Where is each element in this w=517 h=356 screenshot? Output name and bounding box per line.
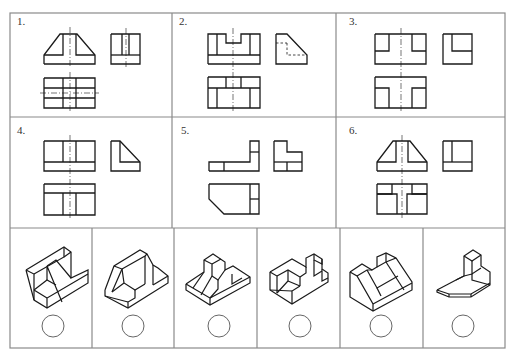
problem-label-6: 6. — [349, 124, 357, 136]
isometric-edge — [386, 258, 396, 262]
problem-label-4: 4. — [17, 124, 25, 136]
isometric-edge — [212, 259, 221, 264]
isometric-edge — [456, 276, 464, 280]
isometric-edge — [47, 274, 88, 308]
problem-label-1: 1. — [17, 15, 25, 27]
problem-label-2: 2. — [179, 15, 187, 27]
answer-circle-2[interactable] — [122, 315, 144, 337]
isometric-option-3 — [186, 254, 250, 305]
isometric-edge — [210, 277, 250, 298]
isometric-option-6 — [437, 250, 490, 297]
isometric-edge — [288, 281, 300, 286]
isometric-option-2 — [105, 250, 168, 308]
answer-circle-4[interactable] — [289, 315, 311, 337]
isometric-edge — [350, 253, 412, 311]
isometric-drawings — [0, 0, 517, 356]
isometric-edge — [212, 270, 225, 280]
isometric-edge — [300, 267, 306, 277]
isometric-edge — [464, 255, 481, 261]
isometric-edge — [270, 290, 292, 291]
isometric-edge — [314, 254, 322, 264]
three-view-matching-worksheet: 1. 2. 3. 4. 5. 6. — [0, 0, 517, 356]
isometric-option-4 — [270, 254, 328, 304]
isometric-edge — [122, 254, 147, 269]
isometric-edge — [472, 274, 490, 285]
answer-circle-3[interactable] — [208, 315, 230, 337]
answer-circle-5[interactable] — [370, 315, 392, 337]
answer-circle-6[interactable] — [452, 315, 474, 337]
isometric-edge — [153, 276, 168, 285]
isometric-edge — [105, 296, 128, 302]
problem-label-5: 5. — [181, 124, 189, 136]
isometric-edge — [193, 272, 204, 288]
isometric-edge — [105, 250, 168, 308]
isometric-option-5 — [350, 253, 412, 311]
isometric-edge — [437, 283, 490, 294]
isometric-edge — [204, 260, 212, 276]
problem-label-3: 3. — [349, 15, 357, 27]
isometric-edge — [472, 261, 481, 274]
isometric-edge — [26, 247, 88, 308]
isometric-option-1 — [26, 247, 88, 308]
isometric-edge — [464, 274, 472, 276]
isometric-edge — [377, 288, 381, 296]
isometric-edge — [122, 269, 145, 290]
isometric-edge — [34, 280, 56, 290]
isometric-edge — [437, 250, 490, 297]
isometric-edge — [64, 252, 71, 257]
isometric-edge — [186, 284, 210, 305]
answer-circle-1[interactable] — [42, 315, 64, 337]
isometric-edge — [270, 254, 328, 304]
isometric-edge — [34, 290, 47, 298]
isometric-edge — [201, 276, 212, 295]
isometric-edge — [350, 272, 373, 311]
